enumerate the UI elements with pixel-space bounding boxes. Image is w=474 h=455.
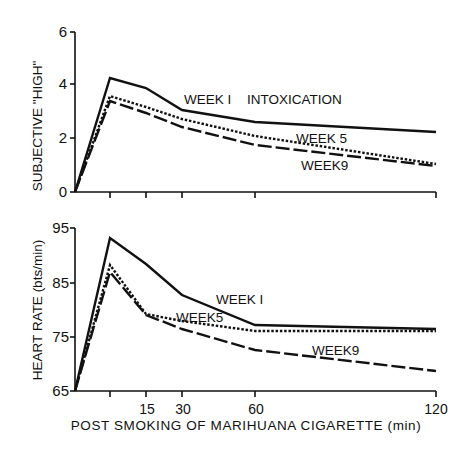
heart-rate-chart: 65 75 85 95 15 30 60 120 HEART RATE (bts… — [30, 219, 448, 433]
ytick-label: 6 — [59, 23, 67, 40]
ytick-label: 0 — [59, 183, 67, 200]
x-axis-label: POST SMOKING OF MARIHUANA CIGARETTE (min… — [71, 418, 422, 433]
ytick-label: 75 — [52, 328, 69, 345]
annotation-week9: WEEK9 — [301, 158, 348, 173]
ytick-label: 95 — [52, 219, 69, 236]
xtick-label: 30 — [175, 401, 191, 417]
series-week5-high — [75, 96, 436, 192]
xtick-label: 15 — [139, 401, 155, 417]
bottom-x-tick-labels: 15 30 60 120 — [139, 401, 448, 417]
xtick-label: 60 — [248, 401, 264, 417]
bottom-y-axis — [70, 228, 75, 391]
annotation-week1: WEEK I — [216, 292, 263, 307]
ytick-label: 4 — [59, 75, 67, 92]
ytick-label: 85 — [52, 274, 69, 291]
annotation-week1: WEEK I — [184, 92, 231, 107]
bottom-y-axis-label: HEART RATE (bts/min) — [30, 240, 45, 380]
top-y-axis-label: SUBJECTIVE "HIGH" — [30, 61, 45, 192]
series-week1-heart-rate — [75, 238, 436, 391]
ytick-label: 2 — [59, 129, 67, 146]
annotation-week5: WEEK5 — [176, 310, 223, 325]
annotation-week9: WEEK9 — [312, 343, 359, 358]
annotation-week5: WEEK 5 — [296, 131, 347, 146]
bottom-x-axis — [75, 391, 436, 397]
bottom-y-tick-labels: 65 75 85 95 — [52, 219, 69, 399]
ytick-label: 65 — [52, 382, 69, 399]
subjective-high-chart: 0 2 4 6 SUBJECTIVE "HIGH" WEEK I INTOXIC… — [30, 23, 436, 200]
top-y-tick-labels: 0 2 4 6 — [59, 23, 67, 200]
annotation-intoxication: INTOXICATION — [247, 92, 342, 107]
xtick-label: 120 — [424, 401, 448, 417]
series-week9-high — [75, 101, 436, 192]
top-x-axis — [75, 192, 436, 198]
figure: 0 2 4 6 SUBJECTIVE "HIGH" WEEK I INTOXIC… — [0, 0, 474, 455]
top-y-axis — [70, 32, 75, 192]
